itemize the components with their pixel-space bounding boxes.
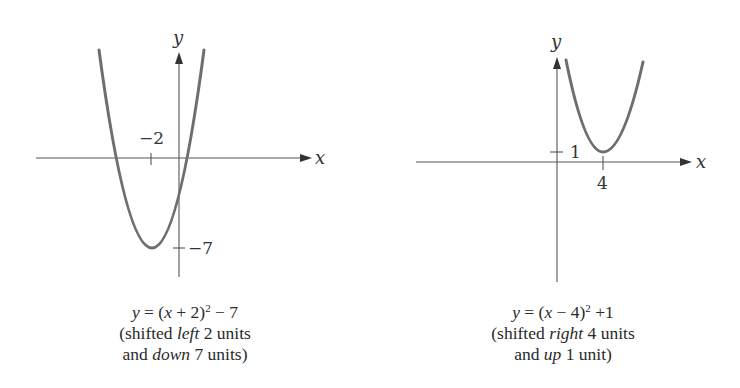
left-parabola — [99, 50, 204, 248]
right-x-tick-label: 4 — [597, 173, 608, 193]
right-cap3-pre: and — [514, 344, 544, 364]
left-cap3-direction: down — [152, 344, 190, 364]
right-x-axis-label: x — [696, 151, 706, 172]
right-x-axis-arrow-icon — [680, 158, 692, 166]
left-y-axis-label: y — [172, 27, 184, 48]
right-cap2-direction: right — [549, 323, 583, 343]
right-eq-x: x — [544, 302, 552, 322]
right-eq-tail: +1 — [591, 302, 614, 322]
left-eq-inner: + 2) — [172, 302, 205, 322]
right-parabola — [566, 60, 643, 152]
left-cap3-pre: and — [123, 344, 153, 364]
left-eq-tail: − 7 — [211, 302, 238, 322]
right-y-axis-label: y — [550, 31, 562, 52]
right-cap3-post: 1 unit) — [561, 344, 612, 364]
left-y-axis-arrow-icon — [175, 52, 183, 64]
right-caption: y = (x − 4)2 +1 (shifted right 4 units a… — [448, 302, 678, 365]
right-eq-equals: = ( — [520, 302, 544, 322]
left-caption-shift-vertical: and down 7 units) — [70, 344, 300, 365]
right-cap3-direction: up — [544, 344, 562, 364]
left-graph: x y −2 −7 — [36, 27, 325, 277]
left-cap2-post: 2 units — [199, 323, 251, 343]
right-equation: y = (x − 4)2 +1 — [448, 302, 678, 323]
right-graph: x y 1 4 — [416, 31, 706, 282]
left-caption: y = (x + 2)2 − 7 (shifted left 2 units a… — [70, 302, 300, 365]
left-y-tick-label: −7 — [188, 238, 213, 258]
right-eq-y: y — [512, 302, 520, 322]
right-eq-inner: − 4) — [552, 302, 585, 322]
left-cap2-pre: (shifted — [119, 323, 177, 343]
left-eq-x: x — [164, 302, 172, 322]
right-cap2-post: 4 units — [583, 323, 635, 343]
left-caption-shift-horizontal: (shifted left 2 units — [70, 323, 300, 344]
left-cap3-post: 7 units) — [190, 344, 247, 364]
left-x-tick-label: −2 — [139, 128, 164, 148]
right-cap2-pre: (shifted — [491, 323, 549, 343]
right-caption-shift-horizontal: (shifted right 4 units — [448, 323, 678, 344]
left-cap2-direction: left — [177, 323, 199, 343]
right-y-axis-arrow-icon — [553, 57, 561, 69]
left-x-axis-label: x — [315, 147, 325, 168]
left-eq-equals: = ( — [140, 302, 164, 322]
left-eq-y: y — [132, 302, 140, 322]
left-equation: y = (x + 2)2 − 7 — [70, 302, 300, 323]
right-caption-shift-vertical: and up 1 unit) — [448, 344, 678, 365]
left-x-axis-arrow-icon — [300, 154, 312, 162]
right-y-tick-label: 1 — [570, 142, 581, 162]
